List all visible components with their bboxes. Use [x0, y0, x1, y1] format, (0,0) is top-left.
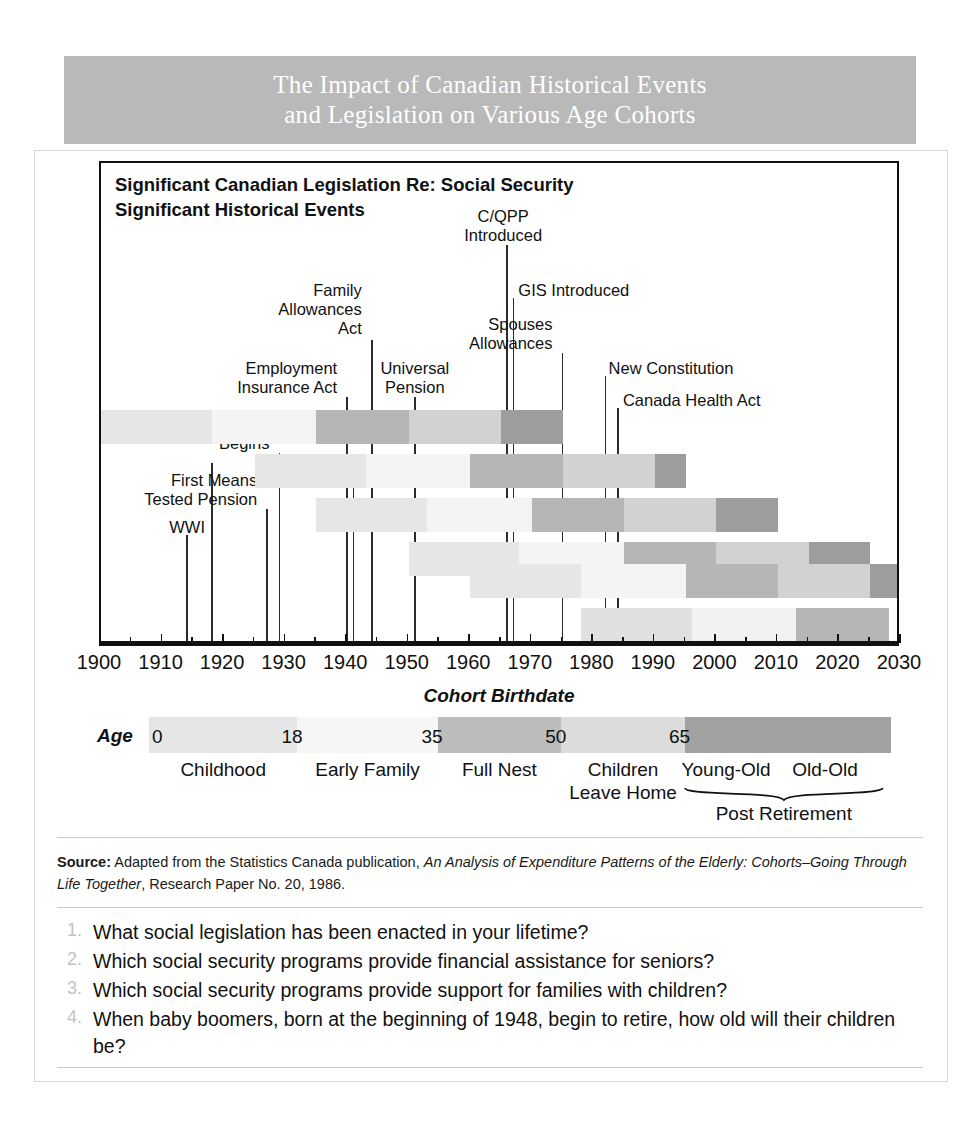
x-axis-line	[99, 643, 899, 646]
figure-card: Significant Canadian Legislation Re: Soc…	[34, 150, 948, 1082]
x-axis-title: Cohort Birthdate	[99, 685, 899, 707]
age-scale-label: Age	[97, 725, 133, 747]
x-axis-tick	[253, 637, 255, 643]
question-number: 4.	[67, 1006, 93, 1028]
life-stage-label: Old-Old	[792, 759, 857, 782]
event-label-first-means-tested-pension: First MeansTested Pension	[144, 471, 257, 509]
x-axis-tick	[284, 634, 286, 643]
event-label-line: C/QPP	[464, 207, 542, 226]
question-row: 2.Which social security programs provide…	[67, 948, 913, 975]
x-axis-tick	[653, 634, 655, 643]
cohort-bar-segment	[470, 454, 562, 488]
questions-divider-bottom	[57, 1067, 923, 1068]
event-label-line: Canada Health Act	[623, 391, 761, 410]
x-axis-tick	[314, 637, 316, 643]
x-axis-tick	[99, 634, 101, 643]
age-scale-segment	[561, 717, 685, 753]
questions-list: 1.What social legislation has been enact…	[57, 913, 923, 1063]
event-label-canada-health-act: Canada Health Act	[623, 391, 761, 410]
life-stage-label: Childhood	[180, 759, 266, 782]
post-retirement-brace-icon	[682, 787, 886, 803]
age-scale-bar: 018355065	[149, 717, 891, 753]
x-axis-tick	[868, 637, 870, 643]
x-axis-tick	[561, 637, 563, 643]
cohort-bar-segment	[101, 410, 212, 444]
age-scale-tick-label: 65	[669, 726, 690, 748]
cohort-bar-segment	[532, 498, 624, 532]
source-text-before: Adapted from the Statistics Canada publi…	[111, 854, 424, 870]
question-number: 2.	[67, 948, 93, 970]
x-axis-tick-label: 1960	[446, 651, 491, 674]
event-line-family-allowances-act	[371, 340, 373, 643]
x-axis-tick-label: 1920	[200, 651, 245, 674]
event-label-line: Family	[278, 281, 361, 300]
x-axis-tick	[345, 634, 347, 643]
question-number: 3.	[67, 977, 93, 999]
cohort-bar-segment	[655, 454, 686, 488]
cohort-bar-segment	[212, 410, 317, 444]
questions-divider-top	[57, 907, 923, 908]
x-axis-tick-label: 1910	[138, 651, 183, 674]
question-text: Which social security programs provide f…	[93, 948, 905, 975]
question-row: 3.Which social security programs provide…	[67, 977, 913, 1004]
x-axis-tick-label: 1950	[384, 651, 429, 674]
age-scale-tick-label: 0	[152, 726, 163, 748]
age-scale-segment	[685, 717, 891, 753]
x-axis-tick-label: 1980	[569, 651, 614, 674]
event-label-c-qpp-introduced: C/QPPIntroduced	[464, 207, 542, 245]
question-text: What social legislation has been enacted…	[93, 919, 905, 946]
event-label-line: Allowances	[278, 300, 361, 319]
figure-title-banner: The Impact of Canadian Historical Events…	[64, 56, 916, 144]
age-scale-segment	[149, 717, 297, 753]
life-stage-label: Early Family	[315, 759, 420, 782]
event-label-line: First Means	[144, 471, 257, 490]
x-axis-tick	[684, 637, 686, 643]
cohort-bar-segment	[581, 608, 692, 642]
life-stage-label: Full Nest	[462, 759, 537, 782]
figure-title-line-2: and Legislation on Various Age Cohorts	[284, 100, 696, 131]
source-note: Source: Adapted from the Statistics Cana…	[57, 851, 923, 896]
post-retirement-label: Post Retirement	[716, 803, 852, 825]
cohort-bar-segment	[563, 454, 655, 488]
cohort-bar	[316, 498, 778, 532]
event-label-line: Insurance Act	[237, 378, 337, 397]
life-stage-labels: ChildhoodEarly FamilyFull NestChildren L…	[99, 759, 919, 821]
cohort-bar-segment	[581, 564, 686, 598]
cohort-bar-segment	[427, 498, 532, 532]
event-label-line: Universal	[380, 359, 449, 378]
event-label-spouses-allowances: SpousesAllowances	[469, 315, 552, 353]
x-axis-tick	[899, 634, 901, 643]
event-label-line: WWI	[169, 518, 205, 537]
question-text: When baby boomers, born at the beginning…	[93, 1006, 905, 1060]
cohort-bar-segment	[778, 564, 870, 598]
x-axis-tick	[161, 634, 163, 643]
figure-page: The Impact of Canadian Historical Events…	[0, 0, 978, 1136]
source-text-after: , Research Paper No. 20, 1986.	[141, 876, 345, 892]
x-axis-tick	[130, 637, 132, 643]
event-label-new-constitution: New Constitution	[609, 359, 734, 378]
chart-plot-layer: WWIFirst MeansTested PensionDepressionBe…	[101, 163, 897, 641]
x-axis-tick	[591, 634, 593, 643]
cohort-bar-segment	[692, 608, 797, 642]
age-scale-tick-label: 18	[281, 726, 302, 748]
source-divider	[57, 837, 923, 838]
x-axis-tick	[222, 634, 224, 643]
x-axis-tick	[776, 634, 778, 643]
figure-title-line-1: The Impact of Canadian Historical Events	[273, 70, 706, 101]
event-label-line: Employment	[237, 359, 337, 378]
question-number: 1.	[67, 919, 93, 941]
event-label-universal-pension: UniversalPension	[380, 359, 449, 397]
event-line-first-means-tested-pension	[266, 509, 268, 643]
chart-plot-frame: Significant Canadian Legislation Re: Soc…	[99, 161, 899, 643]
cohort-bar-segment	[796, 608, 888, 642]
age-scale-tick-label: 50	[545, 726, 566, 748]
event-label-employment-insurance-act: EmploymentInsurance Act	[237, 359, 337, 397]
cohort-bar-segment	[366, 454, 471, 488]
source-prefix: Source:	[57, 854, 111, 870]
x-axis-tick-label: 1930	[261, 651, 306, 674]
age-scale-segment	[297, 717, 437, 753]
x-axis-tick-label: 2030	[877, 651, 922, 674]
event-label-line: Act	[278, 319, 361, 338]
x-axis-tick	[807, 637, 809, 643]
cohort-bar-segment	[870, 564, 899, 598]
